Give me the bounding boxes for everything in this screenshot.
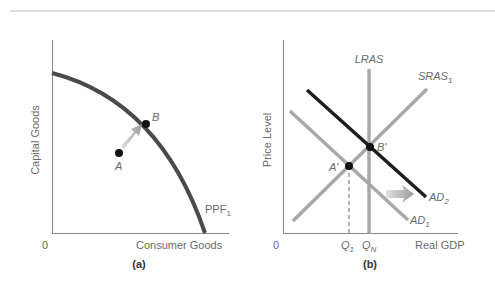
qn-label: QN [362,239,377,254]
point-b [142,120,150,128]
panel-a-caption: (a) [132,258,146,270]
lras-label: LRAS [355,53,384,65]
panel-b-ad-as-chart: LRAS SRAS1 AD2 AD1 A' B' Q1 QN Price Lev… [261,40,465,270]
sras1-label: SRAS1 [418,70,452,85]
sras1-line [293,89,427,221]
panel-a-origin-label: 0 [42,239,48,251]
growth-arrow-icon [121,124,142,149]
point-a-prime-label: A' [328,161,339,173]
ad1-label: AD1 [409,214,430,229]
shift-right-arrow-icon [386,185,414,203]
q1-label: Q1 [341,239,354,254]
panel-b-caption: (b) [363,258,377,270]
economics-figure: A B PPF1 Capital Goods Consumer Goods 0 … [0,0,495,288]
point-a-prime [345,162,353,170]
panel-b-y-axis-label: Price Level [261,113,273,167]
panel-b-origin-label: 0 [273,239,279,251]
point-b-prime-label: B' [377,141,387,153]
panel-a-x-axis-label: Consumer Goods [136,239,223,251]
point-b-prime [366,143,374,151]
point-b-label: B [152,111,159,123]
panel-a-ppf-chart: A B PPF1 Capital Goods Consumer Goods 0 … [29,40,231,270]
panel-b-x-axis-label: Real GDP [415,239,465,251]
panel-a-y-axis-label: Capital Goods [29,105,41,175]
ppf-curve [52,73,205,233]
point-a-label: A [114,160,122,172]
ad2-label: AD2 [428,191,449,206]
ppf-label: PPF1 [205,203,231,218]
point-a [115,149,123,157]
